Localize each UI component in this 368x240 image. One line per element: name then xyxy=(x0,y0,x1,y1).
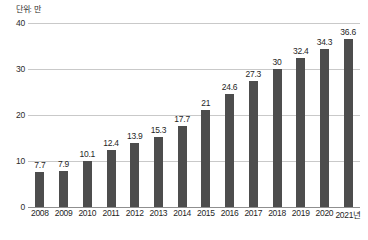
bar-chart: 단위: 만 010203040 7.77.910.112.413.915.317… xyxy=(0,0,368,240)
x-axis-tick-label: 2009 xyxy=(55,208,73,218)
bar xyxy=(178,126,187,207)
bar-value-label: 15.3 xyxy=(151,125,167,135)
y-axis-tick-label-0: 0 xyxy=(20,202,25,212)
bar xyxy=(320,49,329,207)
x-axis-tick-label: 2011 xyxy=(102,208,119,218)
x-axis-tick-label: 2021년 xyxy=(335,208,360,220)
bar-value-label: 12.4 xyxy=(103,138,119,148)
y-axis: 010203040 xyxy=(0,23,25,207)
bar xyxy=(107,150,116,207)
bar xyxy=(130,143,139,207)
bar-group: 36.6 xyxy=(344,23,353,207)
x-axis-tick-label: 2018 xyxy=(268,208,286,218)
bar-value-label: 27.3 xyxy=(246,69,262,79)
bar-group: 12.4 xyxy=(107,23,116,207)
x-axis-tick-label: 2019 xyxy=(292,208,310,218)
y-axis-tick-label-40: 40 xyxy=(16,18,25,28)
x-axis-tick-label: 2015 xyxy=(197,208,215,218)
bar-value-label: 17.7 xyxy=(174,114,190,124)
bar-value-label: 10.1 xyxy=(80,149,96,159)
y-axis-tick-label-20: 20 xyxy=(16,110,25,120)
bar xyxy=(273,69,282,207)
bar xyxy=(296,58,305,207)
bar xyxy=(249,81,258,207)
bar-group: 32.4 xyxy=(296,23,305,207)
bar-group: 24.6 xyxy=(225,23,234,207)
bar-group: 27.3 xyxy=(249,23,258,207)
bar-value-label: 34.3 xyxy=(317,37,333,47)
bar-group: 13.9 xyxy=(130,23,139,207)
x-axis-tick-label: 2017 xyxy=(244,208,262,218)
x-axis: 2008200920102011201220132014201520162017… xyxy=(28,208,360,224)
bar xyxy=(154,137,163,207)
x-axis-tick-label: 2010 xyxy=(78,208,96,218)
bar xyxy=(201,110,210,207)
bar-series: 7.77.910.112.413.915.317.72124.627.33032… xyxy=(28,23,360,207)
bar-value-label: 36.6 xyxy=(340,27,356,37)
bar-value-label: 30 xyxy=(273,57,282,67)
y-axis-tick-label-30: 30 xyxy=(16,64,25,74)
bar xyxy=(35,172,44,207)
bar-value-label: 7.7 xyxy=(34,160,45,170)
bar xyxy=(225,94,234,207)
y-axis-tick-label-10: 10 xyxy=(16,156,25,166)
bar-group: 15.3 xyxy=(154,23,163,207)
x-axis-tick-label: 2008 xyxy=(31,208,49,218)
x-axis-tick-label: 2014 xyxy=(173,208,191,218)
bar-value-label: 13.9 xyxy=(127,131,143,141)
x-axis-tick-label: 2013 xyxy=(150,208,168,218)
bar-group: 30 xyxy=(273,23,282,207)
bar xyxy=(83,161,92,207)
bar-value-label: 32.4 xyxy=(293,46,309,56)
x-axis-tick-label: 2012 xyxy=(126,208,144,218)
bar-group: 10.1 xyxy=(83,23,92,207)
unit-label: 단위: 만 xyxy=(16,3,40,14)
bar-group: 7.9 xyxy=(59,23,68,207)
bar xyxy=(59,171,68,207)
bar-group: 21 xyxy=(201,23,210,207)
bar-group: 17.7 xyxy=(178,23,187,207)
bar-value-label: 21 xyxy=(201,98,210,108)
bar-group: 34.3 xyxy=(320,23,329,207)
bar-value-label: 24.6 xyxy=(222,82,238,92)
x-axis-tick-label: 2016 xyxy=(221,208,239,218)
bar xyxy=(344,39,353,207)
x-axis-tick-label: 2020 xyxy=(316,208,334,218)
bar-group: 7.7 xyxy=(35,23,44,207)
bar-value-label: 7.9 xyxy=(58,159,69,169)
